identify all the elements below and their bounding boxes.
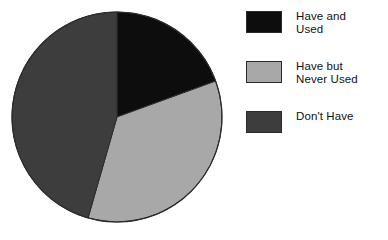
legend-label-have-and-used: Have and Used — [296, 10, 346, 35]
pie-slices — [12, 12, 222, 222]
legend-item-have-but-never-used[interactable]: Have but Never Used — [246, 60, 386, 110]
legend-swatch-have-and-used — [246, 11, 282, 33]
legend-swatch-dont-have — [246, 111, 282, 133]
legend-swatch-have-but-never-used — [246, 61, 282, 83]
legend-item-have-and-used[interactable]: Have and Used — [246, 10, 386, 60]
chart-legend: Have and Used Have but Never Used Don't … — [246, 10, 386, 160]
legend-label-have-but-never-used: Have but Never Used — [296, 60, 358, 85]
legend-item-dont-have[interactable]: Don't Have — [246, 110, 386, 160]
legend-label-dont-have: Don't Have — [296, 110, 354, 123]
pie-chart — [8, 8, 230, 232]
pie-chart-figure: Have and Used Have but Never Used Don't … — [0, 0, 388, 240]
